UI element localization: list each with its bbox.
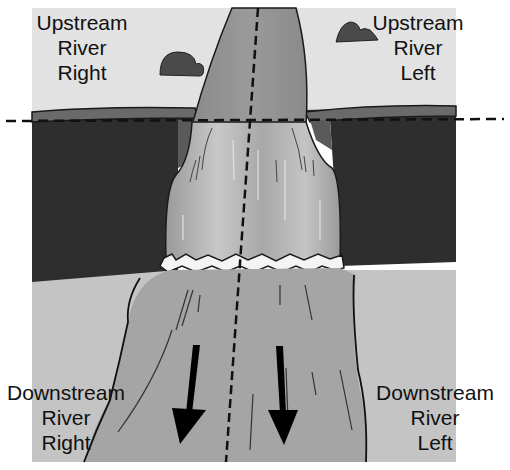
label-line: River xyxy=(2,405,130,430)
waterfall-curtain xyxy=(166,122,341,262)
label-line: Right xyxy=(2,430,130,455)
label-line: Downstream xyxy=(2,380,130,405)
label-line: River xyxy=(370,405,500,430)
label-line: Upstream xyxy=(18,10,146,35)
label-downstream-river-right: Downstream River Right xyxy=(2,380,130,455)
label-line: River xyxy=(368,35,468,60)
label-line: Upstream xyxy=(368,10,468,35)
label-line: Right xyxy=(18,60,146,85)
label-downstream-river-left: Downstream River Left xyxy=(370,380,500,455)
label-upstream-river-right: Upstream River Right xyxy=(18,10,146,85)
label-line: River xyxy=(18,35,146,60)
label-upstream-river-left: Upstream River Left xyxy=(368,10,468,85)
label-line: Left xyxy=(368,60,468,85)
label-line: Downstream xyxy=(370,380,500,405)
label-line: Left xyxy=(370,430,500,455)
